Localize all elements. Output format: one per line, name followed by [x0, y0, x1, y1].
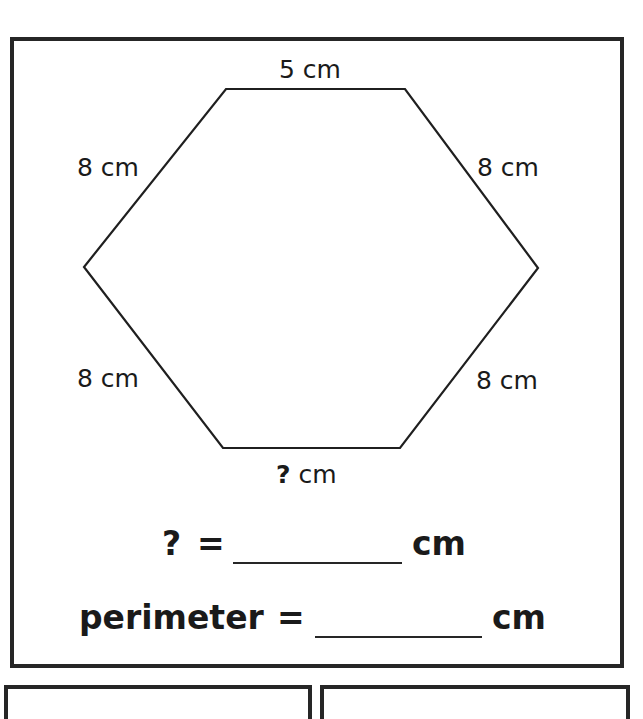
side-label-bottom: ? cm	[276, 462, 337, 487]
equals-sign: =	[277, 601, 305, 634]
unknown-symbol: ?	[162, 527, 181, 560]
side-label-upper-right: 8 cm	[477, 155, 539, 180]
unit-label: cm	[492, 601, 546, 634]
unit-label: cm	[412, 527, 466, 560]
answer-blank-perimeter[interactable]	[315, 636, 482, 638]
next-problem-frame-left	[4, 685, 312, 719]
equals-sign: =	[197, 527, 225, 560]
side-label-upper-left: 8 cm	[77, 155, 139, 180]
perimeter-label: perimeter	[79, 601, 264, 634]
answer-blank-unknown[interactable]	[233, 562, 402, 564]
next-problem-frame-right	[320, 685, 630, 719]
side-label-top: 5 cm	[279, 57, 341, 82]
unit-label: cm	[298, 460, 336, 489]
side-label-lower-right: 8 cm	[476, 368, 538, 393]
side-label-lower-left: 8 cm	[77, 366, 139, 391]
unknown-marker: ?	[276, 460, 291, 489]
